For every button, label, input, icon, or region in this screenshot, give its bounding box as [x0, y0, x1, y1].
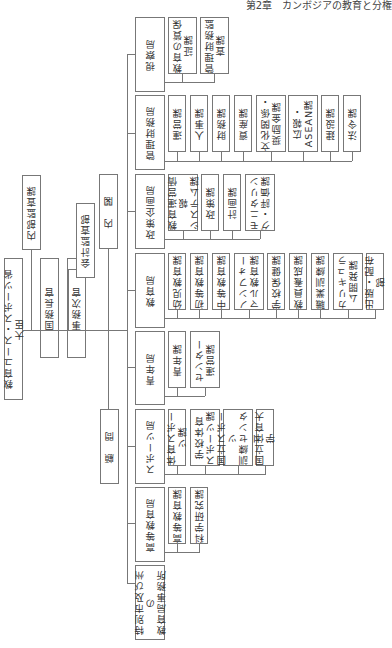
- dept-policy-planning: 政策企画局: [135, 174, 165, 249]
- unit-curriculum: カリキュラ ム開発課: [333, 253, 363, 310]
- unit-pr-asean: 広報・ ASEAN課: [288, 95, 318, 152]
- unit-natl-pe-univ: 国立体育大学: [256, 409, 274, 466]
- unit-assets: 資産課: [234, 95, 252, 152]
- dept-higher-ed: 高等教育局: [135, 487, 165, 562]
- unit-nonformal: ノンフォー マル教育課: [234, 253, 264, 310]
- dept-policy-planning-label: 政策企画局: [145, 184, 156, 239]
- dept-inspection: 視察局: [135, 17, 165, 92]
- dept-provincial: 特別市及び州の 教育局事務所: [135, 565, 165, 640]
- dept-higher-ed-label: 高等教育局: [145, 497, 156, 552]
- unit-publishing: 出版・配布部: [366, 253, 384, 310]
- accounting-audit-label: 会計監査部: [80, 213, 91, 268]
- unit-emis: 教育運営情報 システム課: [168, 174, 198, 231]
- unit-planning: 計画課: [223, 174, 241, 231]
- dept-youth-label: 青年局: [145, 352, 156, 385]
- dept-inspection-label: 視察局: [145, 38, 156, 71]
- internal-audit-box: 内部監査課: [22, 175, 41, 250]
- unit-primary: 初等教育課: [190, 253, 208, 310]
- cabinet-box: 内 閣: [99, 174, 118, 249]
- unit-early-childhood: 幼児教育課: [168, 253, 186, 310]
- unit-finance: 財務課: [212, 95, 230, 152]
- dept-provincial-label: 特別市及び州の 教育局事務所: [134, 566, 167, 639]
- unit-vocational: 職業訓練課: [311, 253, 329, 310]
- dept-education: 教育局: [135, 253, 165, 328]
- minister-box: 教育ユース・スポーツ省 大臣: [4, 258, 23, 400]
- state-secretary-box: 国務長官: [40, 258, 59, 358]
- unit-personnel: 人事課: [190, 95, 208, 152]
- unit-secondary: 中等教育課: [212, 253, 230, 310]
- unit-science-research: 科学研究課: [190, 487, 208, 544]
- unit-construction: 建設課: [321, 95, 339, 152]
- unit-quality-assurance: 教育の質保 証課: [168, 17, 197, 74]
- unit-center-ops: センター 運営課: [190, 331, 220, 388]
- dept-education-label: 教育局: [145, 274, 156, 307]
- secretary-general-label: 事務次官: [71, 286, 82, 330]
- dept-sports: スポーツ局: [135, 409, 165, 484]
- chapter-header: 第2章 カンボジアの教育と分権: [246, 0, 392, 12]
- unit-admin-finance-audit: 管理財務監 査課: [200, 17, 229, 74]
- unit-natl-sports-center: 国立スポーツ 訓練センター: [223, 409, 253, 466]
- unit-culture: 文化関係・ 奨励金課: [256, 95, 286, 152]
- dept-admin-finance-label: 管理財務局: [145, 105, 156, 160]
- dept-youth: 青年局: [135, 331, 165, 405]
- unit-policy: 政策課: [201, 174, 219, 231]
- unit-operations: 運営課: [168, 95, 186, 152]
- dept-sports-label: スポーツ局: [145, 419, 156, 474]
- internal-audit-label: 内部監査課: [26, 185, 37, 240]
- unit-higher-ed: 高等教育課: [168, 487, 186, 544]
- advisor-box: 顧 問: [100, 409, 119, 484]
- unit-teacher-training: 教員養成課: [289, 253, 307, 310]
- minister-label: 教育ユース・スポーツ省 大臣: [3, 259, 25, 399]
- dept-admin-finance: 管理財務局: [135, 95, 165, 170]
- unit-youth: 青年課: [168, 331, 186, 388]
- unit-school-health: 学校保健課: [267, 253, 285, 310]
- unit-legal: 法令課: [343, 95, 361, 152]
- advisor-label: 顧 問: [104, 430, 115, 463]
- unit-monitoring: モニタリン グ・評価課: [245, 174, 275, 231]
- state-secretary-label: 国務長官: [44, 286, 55, 330]
- accounting-audit-box: 会計監査部: [76, 203, 95, 278]
- cabinet-label: 内 閣: [103, 195, 114, 228]
- unit-pe-sports: 体育スポーツ課: [168, 409, 186, 466]
